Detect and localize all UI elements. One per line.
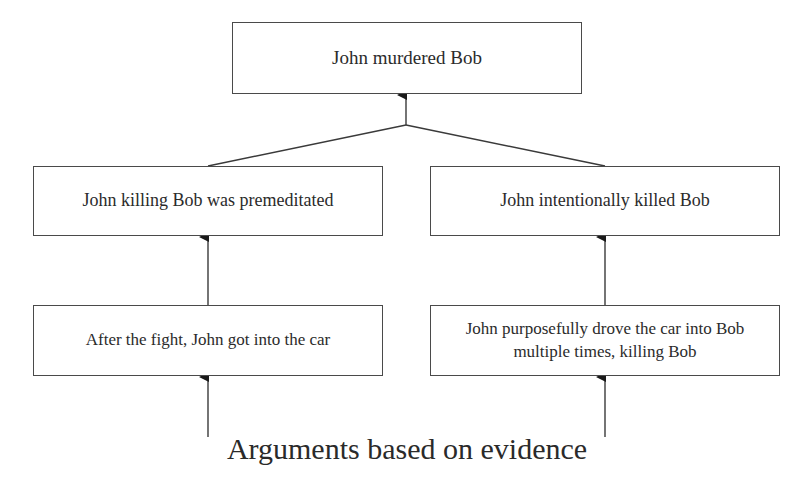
node-intentional: John intentionally killed Bob [430,166,780,236]
node-premeditated-label: John killing Bob was premeditated [83,189,334,212]
node-evidence-drove-label: John purposefully drove the car into Bob… [445,318,765,362]
node-evidence-car-label: After the fight, John got into the car [86,329,331,351]
diagram-caption: Arguments based on evidence [215,432,599,466]
node-evidence-drove: John purposefully drove the car into Bob… [430,305,780,376]
edge-mid-left-to-joint [208,125,406,166]
node-evidence-car: After the fight, John got into the car [33,305,383,376]
node-conclusion: John murdered Bob [232,22,582,94]
node-intentional-label: John intentionally killed Bob [500,189,710,212]
node-premeditated: John killing Bob was premeditated [33,166,383,236]
edge-mid-right-to-joint [406,125,605,166]
node-conclusion-label: John murdered Bob [332,46,482,71]
